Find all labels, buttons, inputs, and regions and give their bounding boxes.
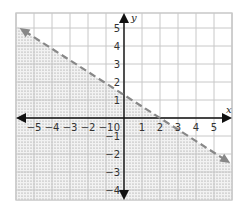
x-axis-label: x <box>226 104 232 115</box>
y-tick-label: −3 <box>105 167 120 178</box>
y-tick-label: −4 <box>105 185 120 196</box>
x-tick-label: −5 <box>27 122 42 133</box>
x-tick-label: −3 <box>63 122 78 133</box>
x-tick-label: 1 <box>139 122 145 133</box>
coordinate-plane: −5−4−3−2−101234554321−1−2−3−4 x y <box>0 0 247 215</box>
y-tick-label: 5 <box>114 23 120 34</box>
y-tick-label: −2 <box>105 149 120 160</box>
y-tick-label: 1 <box>114 95 120 106</box>
y-tick-label: −1 <box>105 131 120 142</box>
x-tick-label: 3 <box>175 122 181 133</box>
x-tick-label: 4 <box>193 122 199 133</box>
y-tick-label: 4 <box>114 41 120 52</box>
x-tick-label: −4 <box>45 122 60 133</box>
y-axis-label: y <box>130 12 137 23</box>
y-tick-label: 3 <box>114 59 120 70</box>
x-tick-label: 5 <box>211 122 217 133</box>
x-tick-label: −2 <box>81 122 96 133</box>
x-tick-label: 2 <box>157 122 163 133</box>
y-tick-label: 2 <box>114 77 120 88</box>
